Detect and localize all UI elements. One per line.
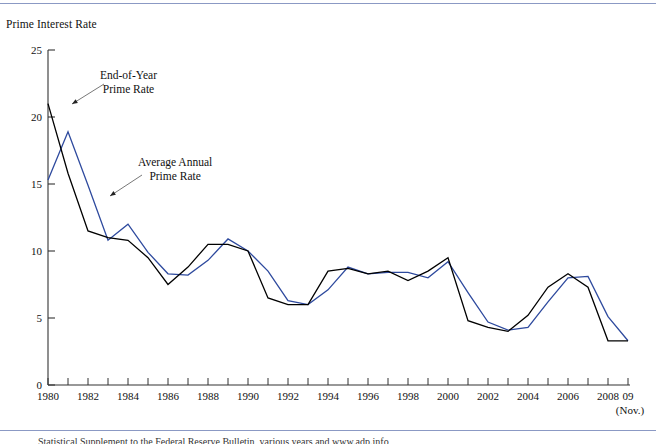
y-tick-label: 25 (20, 44, 42, 56)
annotation-leaders (72, 84, 142, 196)
y-tick-label: 20 (20, 111, 42, 123)
x-tick-label: 1982 (77, 390, 99, 402)
x-tick-label: 09 (623, 390, 634, 402)
x-axis-ticks (48, 378, 628, 385)
x-tick-label: 2008 (597, 390, 619, 402)
bottom-divider-rule (0, 430, 656, 431)
chart-page: Prime Interest Rate End-of-Year Prime Ra… (0, 0, 656, 444)
source-note: Statistical Supplement to the Federal Re… (38, 436, 648, 444)
x-tick-label: 2000 (437, 390, 459, 402)
y-tick-label: 5 (20, 312, 42, 324)
x-tick-label: 1994 (317, 390, 339, 402)
x-tick-label: 1992 (277, 390, 299, 402)
chart-plot-area (0, 0, 656, 444)
x-tick-label: 1996 (357, 390, 379, 402)
series-group (48, 104, 628, 341)
x-tick-label: 1988 (197, 390, 219, 402)
x-tick-label: 1984 (117, 390, 139, 402)
x-tick-label: 1990 (237, 390, 259, 402)
x-tick-label: 2002 (477, 390, 499, 402)
y-tick-label: 10 (20, 245, 42, 257)
y-tick-label: 15 (20, 178, 42, 190)
x-tick-label: 2004 (517, 390, 539, 402)
x-tick-label: 1986 (157, 390, 179, 402)
axes-group (48, 50, 630, 385)
x-tick-label: 1998 (397, 390, 419, 402)
x-tick-label: 2006 (557, 390, 579, 402)
annotation-leader-average-annual (110, 175, 142, 196)
y-axis-ticks (48, 50, 55, 385)
series-line-end-of-year-prime-rate (48, 104, 628, 341)
annotation-leader-end-of-year (72, 84, 104, 104)
x-axis-note-nov: (Nov.) (616, 404, 644, 416)
x-tick-label: 1980 (37, 390, 59, 402)
series-line-average-annual-prime-rate (48, 132, 628, 341)
